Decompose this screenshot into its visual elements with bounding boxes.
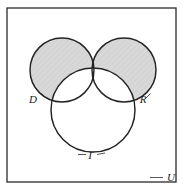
venn-diagram-canvas: D R I U — [0, 0, 188, 195]
set-label-r: R — [139, 93, 147, 105]
venn-diagram-figure: D R I U — [0, 0, 188, 195]
universe-label-u: U — [167, 171, 176, 183]
set-label-d: D — [28, 93, 37, 105]
